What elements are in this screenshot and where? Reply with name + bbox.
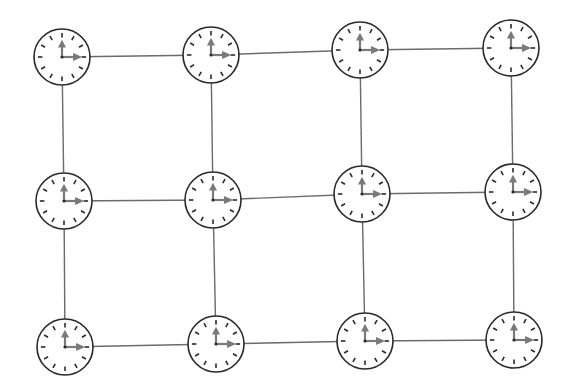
- clock-center-pin: [358, 48, 361, 51]
- clock-center-pin: [363, 339, 366, 342]
- clock-icon: [337, 313, 393, 369]
- clock-center-pin: [63, 345, 66, 348]
- clock-icon: [485, 164, 541, 220]
- clock-icon: [486, 312, 542, 368]
- clock-grid-diagram: [0, 0, 569, 389]
- clock-icon: [37, 319, 93, 375]
- clock-icon: [334, 166, 390, 222]
- clock-center-pin: [512, 338, 515, 341]
- clock-icon: [188, 316, 244, 372]
- clock-center-pin: [360, 192, 363, 195]
- clock-center-pin: [211, 198, 214, 201]
- clock-center-pin: [511, 190, 514, 193]
- connection-lines: [62, 48, 514, 347]
- clock-center-pin: [62, 199, 65, 202]
- clock-center-pin: [60, 55, 63, 58]
- clock-icon: [483, 20, 539, 76]
- clock-icon: [34, 29, 90, 85]
- clock-center-pin: [209, 53, 212, 56]
- clock-icon: [36, 173, 92, 229]
- clock-icon: [185, 172, 241, 228]
- clock-center-pin: [214, 342, 217, 345]
- clock-center-pin: [509, 46, 512, 49]
- clock-icon: [332, 22, 388, 78]
- clock-icon: [183, 27, 239, 83]
